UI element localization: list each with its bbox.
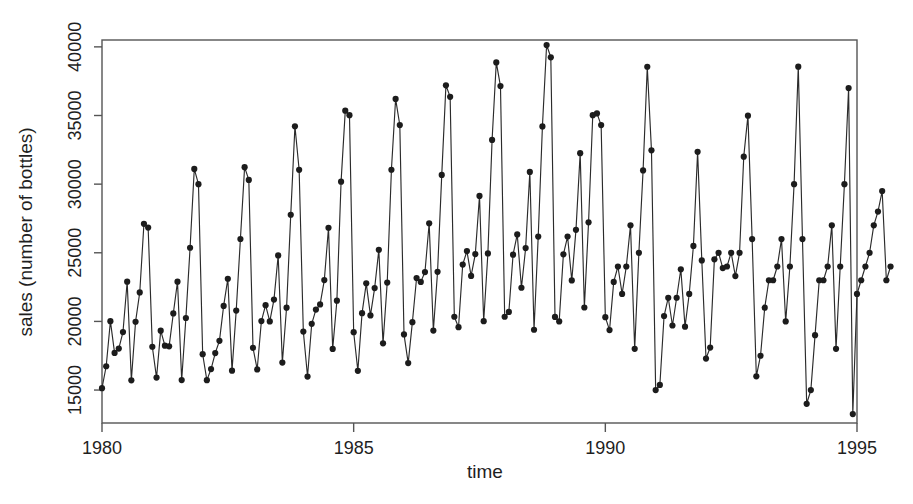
data-point [279,359,285,365]
data-point [401,331,407,337]
data-point [376,247,382,253]
data-point [367,312,373,318]
data-point [338,179,344,185]
data-point [296,167,302,173]
data-point [292,123,298,129]
data-point [715,250,721,256]
data-point [497,83,503,89]
data-point [615,263,621,269]
data-point [518,285,524,291]
y-tick-label: 30000 [65,159,85,209]
data-point [258,318,264,324]
data-point [804,401,810,407]
data-point [535,233,541,239]
data-point [237,236,243,242]
data-point [359,310,365,316]
y-tick-label: 35000 [65,90,85,140]
data-point [602,314,608,320]
x-tick-label: 1995 [837,438,877,458]
data-point [355,368,361,374]
data-point [447,94,453,100]
data-point [548,54,554,60]
data-point [644,64,650,70]
series-points-sales [99,42,894,417]
data-point [539,123,545,129]
data-point [434,269,440,275]
y-tick-label: 20000 [65,296,85,346]
data-point [695,149,701,155]
data-point [275,252,281,258]
data-point [267,318,273,324]
data-point [514,231,520,237]
data-point [829,222,835,228]
data-point [757,353,763,359]
data-point [875,208,881,214]
data-point [225,276,231,282]
data-point [770,277,776,283]
y-tick-label: 15000 [65,365,85,415]
data-point [627,222,633,228]
data-point [527,169,533,175]
data-point [330,346,336,352]
data-point [145,224,151,230]
data-point [351,329,357,335]
data-point [288,212,294,218]
data-point [208,366,214,372]
data-point [221,303,227,309]
data-point [825,263,831,269]
data-point [409,319,415,325]
data-point [732,273,738,279]
data-point [191,166,197,172]
data-point [212,350,218,356]
data-point [187,245,193,251]
data-point [560,251,566,257]
data-point [128,377,134,383]
data-point [736,250,742,256]
x-tick-label: 1985 [334,438,374,458]
data-point [745,113,751,119]
data-point [502,314,508,320]
data-point [405,360,411,366]
data-point [699,257,705,263]
x-axis-title: time [467,461,503,482]
data-point [791,181,797,187]
y-tick-label: 40000 [65,22,85,72]
data-point [300,328,306,334]
data-point [812,332,818,338]
plot-frame [102,40,857,423]
data-point [309,321,315,327]
y-axis-tick-labels: 150002000025000300003500040000 [65,22,85,415]
data-point [472,251,478,257]
data-point [103,363,109,369]
x-axis-tick-labels: 1980198519901995 [82,438,877,458]
data-point [594,110,600,116]
data-point [493,59,499,65]
x-tick-label: 1980 [82,438,122,458]
data-point [846,85,852,91]
data-point [195,181,201,187]
data-point [678,266,684,272]
data-point [808,387,814,393]
data-point [854,291,860,297]
data-point [523,245,529,251]
data-point [200,351,206,357]
data-point [556,318,562,324]
data-point [661,313,667,319]
data-point [619,291,625,297]
data-point [585,219,591,225]
data-point [116,346,122,352]
data-point [598,122,604,128]
data-point [254,366,260,372]
data-point [468,273,474,279]
y-axis-title: sales (number of bottles) [15,127,36,336]
data-point [640,167,646,173]
data-point [741,154,747,160]
data-point [674,295,680,301]
data-point [124,279,130,285]
data-point [665,295,671,301]
data-point [648,147,654,153]
data-point [460,261,466,267]
data-point [564,233,570,239]
data-point [393,96,399,102]
data-point [430,327,436,333]
